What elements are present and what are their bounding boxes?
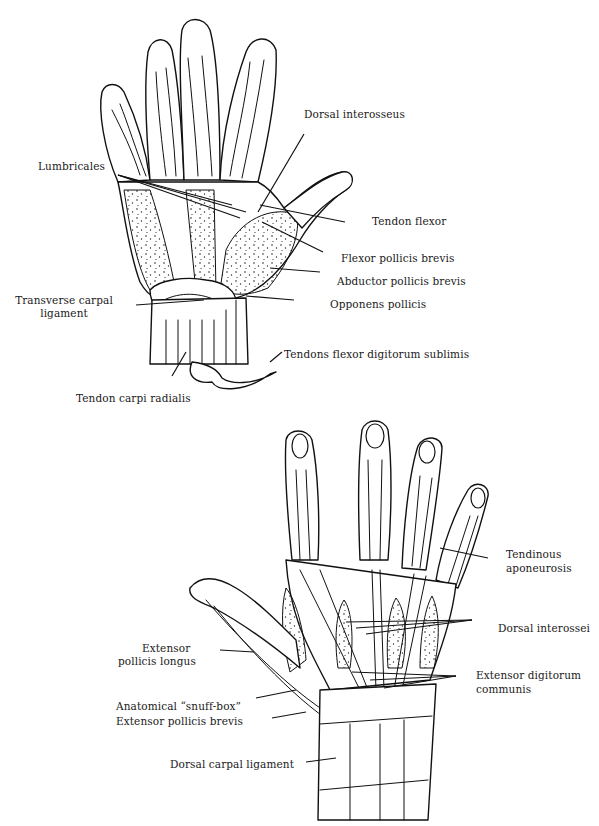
label-dorsal-interossei: Dorsal interossei: [498, 622, 590, 635]
label-extensor-digitorum-communis-line1: Extensor digitorum: [476, 669, 581, 682]
hand-anatomy-diagram: Lumbricales Dorsal interosseus Tendon fl…: [0, 0, 599, 826]
label-opponens-pollicis: Opponens pollicis: [330, 298, 426, 311]
label-flexor-pollicis-brevis: Flexor pollicis brevis: [341, 252, 454, 265]
label-abductor-pollicis-brevis: Abductor pollicis brevis: [337, 275, 466, 288]
label-dorsal-interosseus: Dorsal interosseus: [304, 108, 405, 121]
label-tendinous-aponeurosis-line1: Tendinous: [506, 548, 561, 561]
hand-illustrations: [0, 0, 599, 826]
label-transverse-carpal-ligament-line2: ligament: [14, 307, 114, 320]
label-tendons-flexor-digitorum-sublimis: Tendons flexor digitorum sublimis: [284, 348, 469, 361]
label-transverse-carpal-ligament-line1: Transverse carpal: [14, 294, 114, 307]
label-dorsal-carpal-ligament: Dorsal carpal ligament: [170, 758, 294, 771]
label-anatomical-snuff-box: Anatomical “snuff-box”: [116, 700, 241, 713]
palmar-hand-illustration: [101, 20, 353, 389]
label-tendon-flexor: Tendon flexor: [372, 215, 446, 228]
label-extensor-pollicis-longus-line2: pollicis longus: [118, 655, 196, 668]
label-extensor-pollicis-longus-line1: Extensor: [142, 642, 190, 655]
label-extensor-pollicis-brevis: Extensor pollicis brevis: [116, 715, 243, 728]
label-tendinous-aponeurosis-line2: aponeurosis: [506, 562, 572, 575]
label-lumbricales: Lumbricales: [38, 160, 105, 173]
label-extensor-digitorum-communis-line2: communis: [476, 683, 531, 696]
label-tendon-carpi-radialis: Tendon carpi radialis: [76, 392, 191, 405]
